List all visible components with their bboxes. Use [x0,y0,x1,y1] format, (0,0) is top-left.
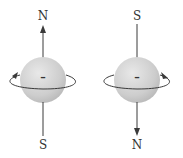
rotation-arrowhead-icon [161,72,168,79]
pole-label-bottom: N [132,138,143,152]
pole-label-top: S [133,9,141,23]
electron-spin-diagram: N S – S N – [0,0,183,158]
pole-label-bottom: S [39,138,47,152]
pole-label-top: N [38,9,49,23]
charge-symbol: – [40,71,46,84]
arrow-down-icon [134,128,140,136]
electron-right: S N – [104,9,170,152]
arrow-up-icon [40,25,46,33]
electron-left: N S – [10,9,76,152]
charge-symbol: – [134,71,140,84]
